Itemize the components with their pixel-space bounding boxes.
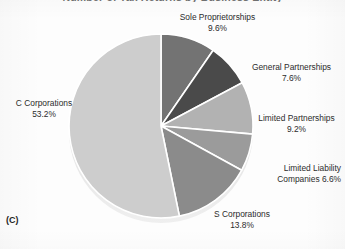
slice-label-general-partnerships: General Partnerships 7.6% [238,62,345,83]
slice-label-sole-proprietorships: Sole Proprietorships 9.6% [160,12,275,33]
slice-label-percent: 9.6% [160,23,275,34]
slice-label-s-corporations: S Corporations 13.8% [192,209,292,230]
slice-label-name: C Corporations [16,98,72,108]
figure-caption: (C) [6,215,19,225]
slice-label-percent: 9.2% [248,124,345,135]
figure-pie-chart: Number of Tax Returns by Business Entity… [0,0,345,249]
slice-label-c-corporations: C Corporations 53.2% [4,98,84,119]
slice-label-limited-liability-companies: Limited Liability Companies 6.6% [238,163,341,184]
slice-label-name: S Corporations [214,209,270,219]
slice-label-name: Sole Proprietorships [180,12,255,22]
slice-label-name: Limited Liability [284,163,341,173]
pie-slice-group: Sole Proprietorships 9.6%General Partner… [69,34,253,218]
slice-label-name: Limited Partnerships [258,113,334,123]
chart-area: Sole Proprietorships 9.6%General Partner… [0,0,345,249]
slice-label-percent: 7.6% [238,73,345,84]
slice-label-limited-partnerships: Limited Partnerships 9.2% [248,113,345,134]
slice-label-percent: 13.8% [192,220,292,231]
slice-label-percent: Companies 6.6% [238,174,341,185]
slice-label-percent: 53.2% [4,109,84,120]
slice-label-name: General Partnerships [252,62,331,72]
